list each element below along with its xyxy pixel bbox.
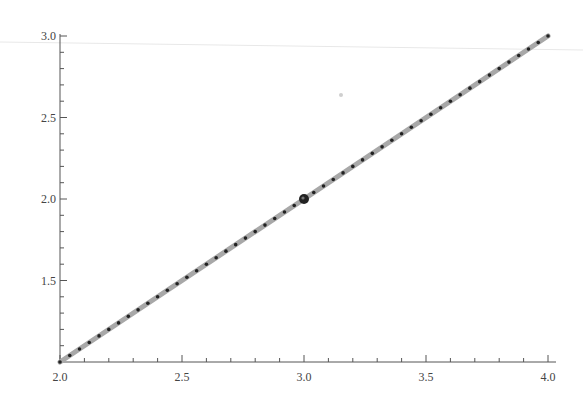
data-point-marker	[263, 223, 267, 227]
data-point-marker	[429, 112, 433, 116]
data-point-marker	[117, 321, 121, 325]
y-tick-label: 2.0	[41, 192, 56, 206]
data-point-marker	[351, 165, 355, 169]
data-point-marker	[166, 288, 170, 292]
x-tick-label: 3.5	[419, 370, 434, 384]
scan-artifact-line	[0, 42, 583, 50]
data-point-marker	[546, 34, 550, 38]
highlighted-point-shine	[301, 196, 304, 199]
data-point-marker	[439, 106, 443, 110]
data-point-marker	[331, 178, 335, 182]
data-point-marker	[341, 171, 345, 175]
data-point-marker	[97, 334, 101, 338]
x-tick-label: 2.0	[53, 370, 68, 384]
x-tick-label: 2.5	[175, 370, 190, 384]
data-point-marker	[292, 204, 296, 208]
y-tick-label: 3.0	[41, 29, 56, 43]
data-point-marker	[371, 152, 375, 156]
data-point-marker	[400, 132, 404, 136]
data-point-marker	[136, 308, 140, 312]
data-point-marker	[507, 60, 511, 64]
data-point-marker	[449, 99, 453, 103]
data-point-marker	[107, 328, 111, 332]
chart: 2.02.53.03.54.0 1.52.02.53.0	[0, 0, 583, 409]
data-point-marker	[390, 139, 394, 143]
data-point-marker	[78, 347, 82, 351]
data-point-marker	[234, 243, 238, 247]
x-axis-ticks: 2.02.53.03.54.0	[53, 355, 556, 384]
scan-artifact-smudge	[339, 93, 343, 97]
data-point-marker	[361, 158, 365, 162]
y-tick-label: 1.5	[41, 274, 56, 288]
data-point-marker	[380, 145, 384, 149]
data-point-marker	[478, 80, 482, 84]
data-point-marker	[205, 262, 209, 266]
data-point-marker	[468, 86, 472, 90]
data-point-marker	[175, 282, 179, 286]
data-point-marker	[458, 93, 462, 97]
x-tick-label: 3.0	[297, 370, 312, 384]
y-axis-ticks: 1.52.02.53.0	[41, 29, 67, 346]
y-tick-label: 2.5	[41, 111, 56, 125]
data-point-marker	[312, 191, 316, 195]
line-plot: 2.02.53.03.54.0 1.52.02.53.0	[0, 0, 583, 409]
data-point-marker	[127, 315, 131, 319]
highlighted-points	[299, 194, 309, 204]
data-point-marker	[253, 230, 257, 234]
data-point-marker	[527, 47, 531, 51]
data-point-marker	[410, 125, 414, 129]
data-point-marker	[419, 119, 423, 123]
data-point-marker	[273, 217, 277, 221]
data-point-marker	[185, 275, 189, 279]
data-point-marker	[195, 269, 199, 273]
data-point-marker	[214, 256, 218, 260]
data-point-marker	[283, 210, 287, 214]
data-point-marker	[58, 360, 62, 364]
data-point-marker	[68, 354, 72, 358]
data-point-marker	[322, 184, 326, 188]
data-point-marker	[497, 67, 501, 71]
data-point-marker	[536, 41, 540, 45]
data-point-marker	[224, 249, 228, 253]
data-point-marker	[156, 295, 160, 299]
data-point-marker	[146, 302, 150, 306]
x-tick-label: 4.0	[541, 370, 556, 384]
data-point-marker	[244, 236, 248, 240]
data-point-marker	[517, 54, 521, 58]
data-point-marker	[488, 73, 492, 77]
data-point-marker	[87, 341, 91, 345]
